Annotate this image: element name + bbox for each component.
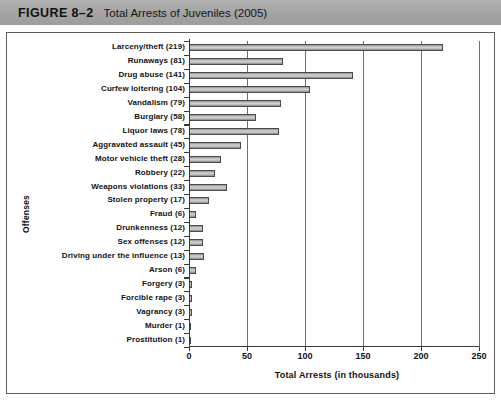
bar-row [189,86,479,94]
category-label: Liquor laws (78) [37,126,185,135]
bar [189,58,283,65]
category-label: Sex offenses (12) [37,237,185,246]
bar-row [189,169,479,177]
x-axis-tick-labels: 050100150200250 [189,351,479,365]
x-tick-label-50: 50 [242,351,252,361]
y-tick [184,333,189,334]
y-axis-title-text: Offenses [21,195,31,233]
category-label: Weapons violations (33) [37,182,185,191]
y-tick [184,319,189,320]
y-tick [184,236,189,237]
bar [189,128,279,135]
bar [189,253,204,260]
bar-row [189,155,479,163]
bar [189,184,227,191]
bar [189,114,256,121]
y-tick [184,41,189,42]
bar-row [189,72,479,80]
bar-row [189,322,479,330]
y-tick [184,347,189,348]
y-tick [184,222,189,223]
category-label: Aggravated assault (45) [37,140,185,149]
y-tick [184,194,189,195]
x-axis-line [189,346,479,347]
bar-row [189,239,479,247]
x-tick-label-150: 150 [355,351,370,361]
y-tick [184,250,189,251]
bar-series [189,41,479,347]
gridline-x-250 [479,41,480,347]
y-axis-line [189,39,190,347]
category-label: Fraud (6) [37,209,185,218]
y-tick [184,111,189,112]
category-label: Robbery (22) [37,168,185,177]
figure-root: FIGURE 8–2 Total Arrests of Juveniles (2… [0,0,501,406]
y-tick [184,124,189,125]
bar-row [189,141,479,149]
bar [189,86,310,93]
bar [189,72,353,79]
y-axis-title: Offenses [15,33,37,395]
bar-row [189,253,479,261]
bar-row [189,267,479,275]
category-label: Larceny/theft (219) [37,42,185,51]
category-label: Drunkenness (12) [37,223,185,232]
figure-title: Total Arrests of Juveniles (2005) [104,7,268,19]
bar-row [189,58,479,66]
chart-frame: Offenses Larceny/theft (219)Runaways (81… [6,32,495,394]
bar-row [189,336,479,344]
y-tick [184,138,189,139]
y-tick [184,97,189,98]
category-label: Driving under the influence (13) [37,251,185,260]
category-label: Forcible rape (3) [37,293,185,302]
bar [189,100,281,107]
category-label: Murder (1) [37,321,185,330]
y-tick [184,291,189,292]
category-label: Arson (6) [37,265,185,274]
y-tick [184,208,189,209]
bar-row [189,308,479,316]
bar-row [189,127,479,135]
figure-header-band: FIGURE 8–2 Total Arrests of Juveniles (2… [0,0,501,25]
x-axis-title: Total Arrests (in thousands) [189,370,485,380]
bar [189,142,241,149]
category-label: Vagrancy (3) [37,307,185,316]
plot-wrap [189,41,479,347]
bar [189,197,209,204]
bar [189,239,203,246]
bar-row [189,44,479,52]
bar-row [189,114,479,122]
figure-number: FIGURE 8–2 [18,6,94,20]
category-label: Runaways (81) [37,56,185,65]
category-label: Motor vehicle theft (28) [37,154,185,163]
y-tick [184,83,189,84]
y-tick [184,152,189,153]
bar [189,225,203,232]
category-label: Curfew loitering (104) [37,84,185,93]
y-tick [184,277,189,278]
x-tick-label-0: 0 [186,351,191,361]
bar-row [189,294,479,302]
y-tick [184,264,189,265]
plot-area [189,41,479,347]
x-tick-label-100: 100 [297,351,312,361]
bar [189,170,215,177]
bar-row [189,280,479,288]
bar [189,156,221,163]
bar [189,44,443,51]
y-tick [184,69,189,70]
category-label: Vandalism (79) [37,98,185,107]
y-tick [184,180,189,181]
category-label: Forgery (3) [37,279,185,288]
bar-row [189,197,479,205]
category-label: Prostitution (1) [37,335,185,344]
y-tick [184,305,189,306]
bar-row [189,211,479,219]
category-label: Drug abuse (141) [37,70,185,79]
y-tick [184,55,189,56]
y-tick [184,166,189,167]
x-tick-label-200: 200 [413,351,428,361]
bar-row [189,183,479,191]
category-axis-labels: Larceny/theft (219)Runaways (81)Drug abu… [37,41,185,347]
bar-row [189,100,479,108]
